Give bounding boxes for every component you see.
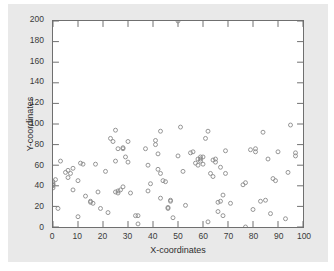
scatter-point xyxy=(116,147,120,151)
scatter-point xyxy=(164,180,168,184)
scatter-point xyxy=(144,147,148,151)
scatter-point xyxy=(286,170,290,174)
scatter-point xyxy=(154,138,158,142)
scatter-point xyxy=(149,182,153,186)
scatter-point xyxy=(211,175,215,179)
scatter-point xyxy=(126,140,130,144)
scatter-point xyxy=(229,201,233,205)
scatter-point xyxy=(191,150,195,154)
scatter-point xyxy=(126,160,130,164)
scatter-point xyxy=(269,212,273,216)
scatter-point xyxy=(69,171,73,175)
scatter-point xyxy=(264,198,268,202)
x-axis-label: X-coordinates xyxy=(52,246,304,255)
scatter-point xyxy=(114,128,118,132)
scatter-point xyxy=(59,159,63,163)
scatter-point xyxy=(146,189,150,193)
scatter-point xyxy=(104,169,108,173)
scatter-point xyxy=(216,210,220,214)
scatter-point xyxy=(136,214,140,218)
y-axis-label: Y-coordinates xyxy=(26,20,35,228)
scatter-point xyxy=(56,206,60,210)
scatter-point xyxy=(204,136,208,140)
scatter-point xyxy=(129,191,133,195)
scatter-point xyxy=(76,215,80,219)
scatter-point xyxy=(156,152,160,156)
scatter-point xyxy=(221,214,225,218)
scatter-point xyxy=(81,162,85,166)
scatter-point xyxy=(206,220,210,224)
scatter-point xyxy=(154,143,158,147)
scatter-point xyxy=(79,161,83,165)
scatter-point xyxy=(106,211,110,215)
scatter-point xyxy=(219,199,223,203)
scatter-point xyxy=(99,206,103,210)
scatter-point xyxy=(159,196,163,200)
scatter-point xyxy=(289,123,293,127)
scatter-point xyxy=(201,162,205,166)
scatter-point xyxy=(249,148,253,152)
scatter-point xyxy=(266,157,270,161)
scatter-point xyxy=(114,190,118,194)
y-tick-label: 20 xyxy=(35,202,44,211)
scatter-point xyxy=(94,162,98,166)
scatter-point xyxy=(219,165,223,169)
scatter-series-coordinates xyxy=(53,21,297,227)
scatter-point xyxy=(184,203,188,207)
scatter-point xyxy=(221,193,225,197)
scatter-point xyxy=(76,179,80,183)
scatter-point xyxy=(121,185,125,189)
scatter-point xyxy=(276,150,280,154)
scatter-point xyxy=(251,208,255,212)
scatter-point xyxy=(206,129,210,133)
scatter-point xyxy=(259,199,263,203)
scatter-point xyxy=(146,163,150,167)
scatter-point xyxy=(114,159,118,163)
scatter-point xyxy=(136,222,140,226)
scatter-point xyxy=(181,169,185,173)
scatter-point xyxy=(159,171,163,175)
figure-container: 020406080100120140160180200 010203040506… xyxy=(0,0,334,271)
scatter-point xyxy=(161,179,165,183)
scatter-point xyxy=(96,190,100,194)
scatter-point xyxy=(179,125,183,129)
scatter-point xyxy=(84,194,88,198)
scatter-point xyxy=(71,188,75,192)
y-tick-label: 40 xyxy=(35,181,44,190)
scatter-point xyxy=(156,167,160,171)
x-tick-label: 100 xyxy=(289,232,319,241)
scatter-point xyxy=(124,155,128,159)
scatter-point xyxy=(71,166,75,170)
scatter-point xyxy=(66,176,70,180)
scatter-point xyxy=(111,140,115,144)
scatter-point xyxy=(171,216,175,220)
scatter-point xyxy=(261,130,265,134)
scatter-plot-svg xyxy=(53,21,303,227)
y-tick-label: 80 xyxy=(35,140,44,149)
scatter-point xyxy=(244,225,248,227)
y-tick-label: 0 xyxy=(39,223,44,232)
scatter-point xyxy=(284,217,288,221)
y-tick-label: 60 xyxy=(35,161,44,170)
scatter-point xyxy=(176,154,180,158)
scatter-point xyxy=(224,149,228,153)
scatter-point xyxy=(159,129,163,133)
x-axis-tick-labels: 0102030405060708090100 xyxy=(52,230,304,244)
plot-area xyxy=(52,20,304,228)
scatter-point xyxy=(189,151,193,155)
scatter-point xyxy=(224,171,228,175)
scatter-point xyxy=(216,200,220,204)
